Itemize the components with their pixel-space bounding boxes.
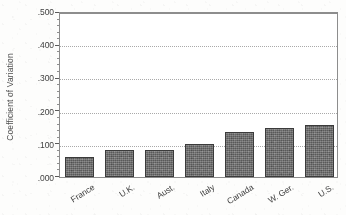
bar — [265, 128, 294, 177]
x-tick-label: W. Ger. — [266, 182, 295, 205]
plot-area — [59, 12, 338, 178]
x-tick-label: U.K. — [117, 182, 136, 199]
chart-figure: Coefficient of Variation .500 .400 .300 … — [0, 0, 346, 215]
x-tick-label: Italy — [197, 182, 215, 199]
y-tick-label: .500 — [22, 7, 54, 17]
bar — [225, 132, 254, 177]
bar — [145, 150, 174, 177]
y-axis-tick-labels: .500 .400 .300 .200 .100 .000 — [14, 12, 54, 178]
x-tick-label: France — [69, 182, 96, 204]
y-tick-label: .100 — [22, 140, 54, 150]
y-tick-label: .300 — [22, 73, 54, 83]
x-tick-label: Canada — [225, 182, 255, 206]
y-tick-label: .400 — [22, 40, 54, 50]
bar — [105, 150, 134, 177]
bars-layer — [60, 13, 337, 177]
x-axis-tick-labels: FranceU.K.Aust.ItalyCanadaW. Ger.U.S. — [59, 178, 338, 215]
y-tick-label: .000 — [22, 173, 54, 183]
bar — [305, 125, 334, 177]
x-tick-label: Aust. — [154, 182, 176, 201]
bar — [65, 157, 94, 177]
bar — [185, 144, 214, 177]
x-tick-label: U.S. — [316, 182, 335, 199]
y-tick-label: .200 — [22, 107, 54, 117]
